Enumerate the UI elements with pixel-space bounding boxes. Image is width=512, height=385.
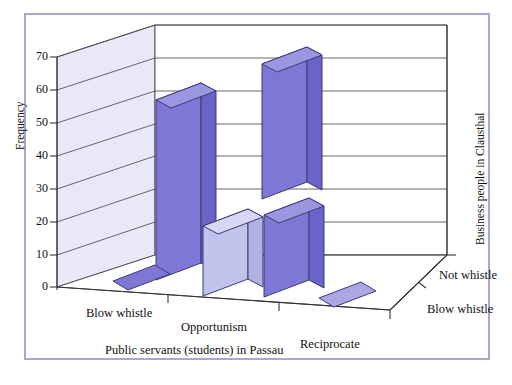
figure-caption	[28, 371, 498, 383]
x-category-reciprocate: Reciprocate	[300, 337, 360, 352]
bar-back-reciprocate	[262, 47, 322, 199]
left-wall	[57, 25, 155, 287]
chart-3d-bar	[0, 0, 512, 385]
y-tick-20: 20	[22, 214, 48, 229]
y-tick-60: 60	[22, 82, 48, 97]
y-axis	[50, 57, 57, 290]
y-tick-0: 0	[22, 279, 48, 294]
y-tick-40: 40	[22, 148, 48, 163]
figure-container: Frequency Business people in Clausthal 7…	[0, 0, 512, 385]
bar-back-opportunism	[264, 198, 324, 297]
z-category-not-whistle: Not whistle	[439, 268, 497, 283]
z-category-blow-whistle: Blow whistle	[427, 302, 493, 317]
y-tick-50: 50	[22, 115, 48, 130]
y-tick-70: 70	[22, 49, 48, 64]
y-tick-30: 30	[22, 181, 48, 196]
x-category-opportunism: Opportunism	[181, 320, 247, 335]
x-category-blow-whistle: Blow whistle	[86, 306, 152, 321]
z-axis-title: Business people in Clausthal	[474, 112, 486, 245]
x-axis-title: Public servants (students) in Passau	[105, 343, 283, 358]
y-tick-10: 10	[22, 247, 48, 262]
